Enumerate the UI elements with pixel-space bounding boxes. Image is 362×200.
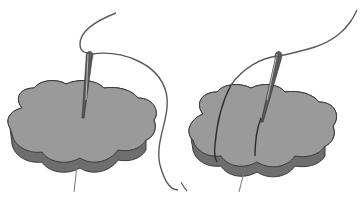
step-1-panel [0,0,181,200]
step-2-panel [181,0,362,200]
sewing-illustration [0,0,362,200]
fabric-top [189,85,337,167]
thread-upper-right [279,10,357,56]
thread-upper [80,13,116,53]
thread-end [181,182,187,191]
